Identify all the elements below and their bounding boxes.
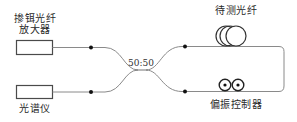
splice-dot-top-right bbox=[183, 45, 187, 49]
amplifier-label: 掺铒光纤 放大器 bbox=[13, 13, 57, 35]
splice-dot-top-left bbox=[89, 46, 93, 50]
coupler-ratio-label: 50:50 bbox=[128, 58, 154, 68]
fiber-coil-icon bbox=[216, 26, 246, 46]
fiber-spectrometer-to-coupler bbox=[53, 70, 139, 92]
polarization-controller-icon bbox=[219, 79, 244, 91]
fiber-coupler-to-bottom bbox=[146, 70, 182, 92]
amplifier-label-line1: 掺铒光纤 bbox=[13, 13, 57, 24]
spectrometer-label: 光谱仪 bbox=[13, 103, 57, 114]
amplifier-box bbox=[17, 41, 53, 55]
splice-dot-bottom-left bbox=[89, 90, 93, 94]
splice-dot-bottom-right bbox=[183, 90, 187, 94]
fiber-amplifier-to-coupler bbox=[53, 48, 139, 71]
polarization-controller-label: 偏振控制器 bbox=[201, 99, 271, 110]
amplifier-label-line2: 放大器 bbox=[13, 24, 57, 35]
spectrometer-box bbox=[17, 86, 53, 99]
fiber-under-test-label: 待测光纤 bbox=[206, 5, 266, 16]
